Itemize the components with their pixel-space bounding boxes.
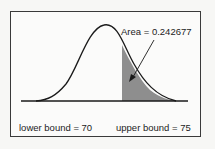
area-label: Area = 0.242677 xyxy=(121,26,192,37)
upper-bound-label: upper bound = 75 xyxy=(116,122,191,133)
area-arrow xyxy=(133,40,154,77)
lower-bound-label: lower bound = 70 xyxy=(19,122,92,133)
shaded-area xyxy=(122,45,176,101)
